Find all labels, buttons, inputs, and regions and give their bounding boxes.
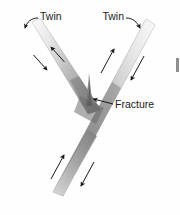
diagram-canvas: Twin Twin Fracture	[0, 0, 180, 215]
right-band-upper-left-arrow	[101, 49, 114, 73]
twin-right-leader	[126, 18, 140, 28]
page-edge-mark	[176, 58, 179, 72]
twin-left-label: Twin	[40, 10, 62, 22]
fracture-label: Fracture	[115, 98, 154, 110]
right-band-lower-right-arrow	[81, 162, 94, 186]
left-band-lower-arrow	[34, 55, 48, 70]
twin-fracture-diagram: Twin Twin Fracture	[0, 0, 180, 215]
twin-right-label: Twin	[102, 10, 124, 22]
